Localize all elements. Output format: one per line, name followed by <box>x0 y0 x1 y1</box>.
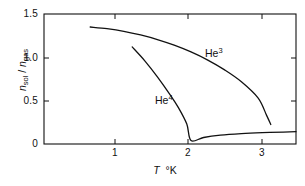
figure-container: 1.5 1.0 0.5 0 1 2 3 nsol / ngas T °K He3… <box>0 0 305 186</box>
y-axis-numerator-symbol: n <box>16 85 28 91</box>
series-label-he3-superscript: 3 <box>218 46 222 55</box>
data-series-layer <box>90 27 296 141</box>
series-label-he3: He3 <box>205 45 223 59</box>
y-axis-ticks <box>44 58 49 101</box>
x-axis-unit: °K <box>166 164 177 176</box>
series-label-he4-superscript: 4 <box>168 93 172 102</box>
series-label-he4: He4 <box>155 92 173 106</box>
y-axis-denominator-symbol: n <box>16 61 28 67</box>
y-axis-numerator-subscript: sol <box>21 76 30 86</box>
y-axis-title: nsol / ngas <box>16 27 32 113</box>
series-curve-he3 <box>90 27 271 125</box>
x-axis-title: T °K <box>120 164 210 176</box>
y-tick-label-0: 0 <box>4 139 38 149</box>
x-axis-ticks <box>115 139 262 144</box>
y-axis-separator: / <box>16 70 28 73</box>
plot-canvas <box>0 0 305 186</box>
x-axis-ticks-top <box>115 14 262 19</box>
x-tick-label-3: 3 <box>247 148 277 158</box>
x-tick-label-2: 2 <box>173 148 203 158</box>
x-axis-symbol: T <box>153 164 159 176</box>
plot-frame <box>44 14 296 144</box>
y-tick-label-1-5: 1.5 <box>4 9 38 19</box>
series-label-he4-base: He <box>155 94 168 106</box>
y-axis-denominator-subscript: gas <box>21 49 30 61</box>
series-label-he3-base: He <box>205 47 218 59</box>
y-axis-ticks-right <box>291 58 296 101</box>
x-tick-label-1: 1 <box>100 148 130 158</box>
